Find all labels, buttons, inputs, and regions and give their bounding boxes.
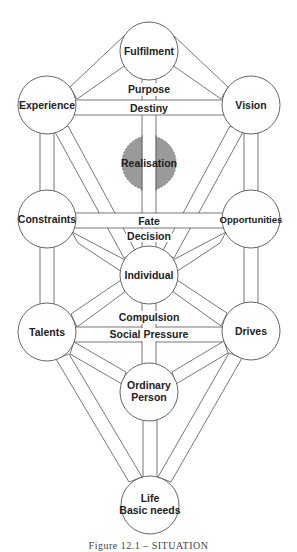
node-label: Basic needs xyxy=(119,504,180,516)
tree-diagram: Fulfilment Experience Vision Realisation… xyxy=(0,0,297,552)
node-label: Opportunities xyxy=(220,214,283,225)
path-label-destiny: Destiny xyxy=(130,102,168,114)
node-label: Individual xyxy=(124,269,173,281)
node-individual: Individual xyxy=(120,246,178,304)
figure-caption: Figure 12.1 – SITUATION xyxy=(0,540,297,551)
path-label-purpose: Purpose xyxy=(128,83,170,95)
band-experience-constraints xyxy=(40,133,54,191)
node-label: Constraints xyxy=(18,213,77,225)
node-experience: Experience xyxy=(18,76,76,134)
node-label: Fulfilment xyxy=(124,45,175,57)
path-label-fate: Fate xyxy=(138,215,160,227)
node-label: Ordinary xyxy=(127,379,171,391)
band-drives-individual xyxy=(172,280,227,326)
node-constraints: Constraints xyxy=(18,190,77,248)
node-realisation: Realisation xyxy=(121,135,177,191)
node-ordinary-person: Ordinary Person xyxy=(120,363,178,421)
path-label-decision: Decision xyxy=(127,230,171,242)
path-label-social-pressure: Social Pressure xyxy=(110,328,189,340)
node-label: Person xyxy=(131,391,167,403)
node-drives: Drives xyxy=(222,302,280,360)
node-life: Life Basic needs xyxy=(119,476,180,534)
node-label: Experience xyxy=(19,99,75,111)
node-label: Drives xyxy=(235,325,267,337)
node-label: Talents xyxy=(29,326,65,338)
node-label: Vision xyxy=(235,99,266,111)
node-vision: Vision xyxy=(222,76,280,134)
node-label: Realisation xyxy=(121,157,177,169)
band-ordinary-life xyxy=(143,420,157,478)
band-opportunities-drives xyxy=(244,247,258,303)
node-fulfilment: Fulfilment xyxy=(120,22,178,80)
band-constraints-talents xyxy=(40,247,54,304)
node-opportunities: Opportunities xyxy=(220,190,283,248)
band-vision-opportunities xyxy=(244,133,258,191)
node-talents: Talents xyxy=(18,303,76,361)
node-label: Life xyxy=(141,492,160,504)
path-label-compulsion: Compulsion xyxy=(119,311,180,323)
